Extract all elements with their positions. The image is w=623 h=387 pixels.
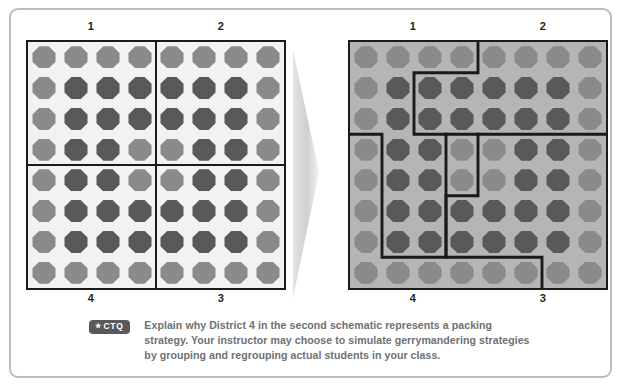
voter-dot-light [256,231,279,253]
right-district-label-top-1: 1 [348,20,478,32]
ctq-badge-label: CTQ [104,321,124,331]
grid-cell [60,196,92,227]
voter-dot-light [128,139,151,161]
grid-cell [124,227,156,258]
grid-cell [188,134,220,165]
left-district-label-top-1: 1 [26,20,156,32]
grid-cell [28,104,60,135]
voter-dot-dark [96,108,119,130]
grid-cell [92,42,124,73]
grid-cell [156,42,188,73]
voter-dot-dark [160,77,183,99]
voter-dot-light [32,262,55,284]
caption: ★CTQ Explain why District 4 in the secon… [89,318,534,363]
voter-dot-dark [64,77,87,99]
voter-dot-light [160,139,183,161]
first-schematic-panel: 1 2 4 3 [25,20,287,310]
grid-cell [156,104,188,135]
voter-dot-light [32,77,55,99]
voter-dot-light [256,46,279,68]
voter-dot-light [128,169,151,191]
voter-dot-dark [128,77,151,99]
voter-dot-dark [192,231,215,253]
voter-dot-dark [192,77,215,99]
second-schematic-grid [348,40,608,290]
voter-dot-dark [64,169,87,191]
grid-cell [188,42,220,73]
grid-cell [252,196,284,227]
voter-dot-light [256,139,279,161]
right-district-label-bottom-4: 4 [348,292,478,304]
grid-cell [124,42,156,73]
voter-dot-dark [192,200,215,222]
grid-cell [188,165,220,196]
ctq-badge: ★CTQ [89,320,130,334]
voter-dot-dark [224,77,247,99]
grid-cell [28,42,60,73]
grid-cell [156,227,188,258]
grid-cell [220,73,252,104]
left-district-label-top-2: 2 [156,20,286,32]
grid-cell [92,227,124,258]
grid-cell [60,165,92,196]
grid-cell [220,42,252,73]
voter-dot-light [32,231,55,253]
voter-dot-light [128,46,151,68]
voter-dot-dark [192,139,215,161]
grid-cell [92,257,124,288]
grid-cell [220,227,252,258]
grid-cell [28,165,60,196]
grid-cell [252,104,284,135]
right-district-label-top-2: 2 [478,20,608,32]
grid-cell [188,196,220,227]
voter-dot-light [96,262,119,284]
left-district-label-bottom-3: 3 [156,292,286,304]
voter-dot-light [256,108,279,130]
grid-cell [60,104,92,135]
grid-cell [220,165,252,196]
grid-cell [156,73,188,104]
grid-cell [92,196,124,227]
voter-dot-light [32,200,55,222]
voter-dot-dark [160,231,183,253]
voter-dot-dark [128,200,151,222]
voter-dot-light [32,46,55,68]
grid-cell [156,165,188,196]
voter-dot-light [64,262,87,284]
grid-cell [220,196,252,227]
voter-dot-light [224,46,247,68]
voter-dot-light [160,169,183,191]
voter-dot-dark [160,200,183,222]
grid-cell [188,227,220,258]
voter-dot-dark [96,139,119,161]
grid-cell [252,73,284,104]
voter-dot-light [256,77,279,99]
grid-cell [220,257,252,288]
voter-dot-light [64,46,87,68]
grid-cell [60,134,92,165]
grid-cell [252,134,284,165]
voter-dot-dark [64,231,87,253]
voter-dot-dark [128,231,151,253]
grid-cell [252,257,284,288]
grid-cell [124,104,156,135]
grid-cell [60,227,92,258]
voter-dot-dark [160,108,183,130]
grid-cell [124,134,156,165]
voter-dot-light [256,169,279,191]
voter-dot-dark [64,108,87,130]
voter-dot-dark [96,200,119,222]
voter-dot-dark [128,108,151,130]
grid-cell [124,257,156,288]
grid-cell [60,73,92,104]
voter-dot-dark [192,108,215,130]
voter-dot-dark [224,139,247,161]
first-schematic-grid [26,40,286,290]
voter-dot-dark [96,77,119,99]
voter-dot-dark [64,139,87,161]
grid-cell [156,257,188,288]
grid-cell [220,104,252,135]
grid-cell [92,134,124,165]
voter-dot-light [96,46,119,68]
grid-cell [28,134,60,165]
